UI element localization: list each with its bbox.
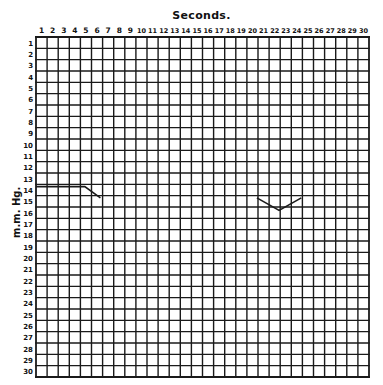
y-tick-label: 14 [23,187,33,195]
x-axis-tick-labels: 1234567891011121314151617181920212223242… [39,26,369,35]
y-tick-label: 23 [23,289,33,297]
y-axis-tick-labels: 1234567891011121314151617181920212223242… [23,40,33,377]
y-tick-label: 12 [23,164,33,172]
x-tick-label: 12 [159,27,168,35]
x-tick-label: 1 [39,26,44,35]
y-tick-label: 3 [28,62,33,70]
y-tick-label: 26 [23,323,33,331]
y-tick-label: 5 [28,85,33,93]
y-tick-label: 11 [23,153,33,161]
x-tick-label: 15 [192,27,202,35]
x-tick-label: 30 [359,27,369,35]
x-tick-label: 29 [348,27,358,35]
x-tick-label: 21 [259,27,269,35]
y-tick-label: 29 [23,357,33,365]
x-tick-label: 8 [117,26,122,35]
x-tick-label: 20 [248,27,258,35]
x-tick-label: 27 [326,27,335,35]
x-tick-label: 10 [137,27,147,35]
x-tick-label: 11 [148,27,158,35]
y-tick-label: 7 [28,108,33,116]
x-tick-label: 22 [270,27,279,35]
x-tick-label: 9 [128,26,133,35]
plot-area: 1234567891011121314151617181920212223242… [0,0,383,385]
x-tick-label: 4 [72,26,77,35]
x-tick-label: 26 [315,27,325,35]
y-axis-label: m.m. Hg. [11,187,22,238]
x-tick-label: 28 [337,27,347,35]
x-tick-label: 2 [50,26,55,35]
y-tick-label: 13 [23,176,33,184]
x-tick-label: 3 [61,26,66,35]
y-tick-label: 8 [28,119,33,127]
x-tick-label: 16 [204,27,214,35]
x-tick-label: 24 [292,27,302,35]
y-tick-label: 1 [28,40,33,48]
y-tick-label: 4 [28,74,33,82]
y-tick-label: 17 [23,221,33,229]
y-tick-label: 25 [23,312,33,320]
y-tick-label: 22 [23,278,33,286]
y-tick-label: 15 [23,198,33,206]
y-tick-label: 16 [23,210,33,218]
chart-container: Seconds. 1234567891011121314151617181920… [0,0,383,385]
x-tick-label: 13 [170,27,179,35]
y-tick-label: 20 [23,255,33,263]
y-tick-label: 9 [28,130,33,138]
x-tick-label: 14 [181,27,191,35]
y-tick-label: 19 [23,244,33,252]
y-tick-label: 2 [28,51,33,59]
y-tick-label: 27 [23,334,33,342]
y-tick-label: 21 [23,266,33,274]
x-tick-label: 5 [83,26,88,35]
x-tick-label: 23 [281,27,290,35]
x-tick-label: 6 [94,26,99,35]
grid-lines [36,37,369,377]
x-tick-label: 17 [215,27,224,35]
x-tick-label: 7 [106,26,111,35]
y-tick-label: 10 [23,142,33,150]
y-tick-label: 18 [23,232,33,240]
y-tick-label: 24 [23,300,33,308]
x-tick-label: 19 [237,27,247,35]
x-tick-label: 18 [226,27,236,35]
y-tick-label: 30 [23,368,33,376]
y-tick-label: 6 [28,96,33,104]
y-tick-label: 28 [23,346,33,354]
trace-right [257,198,301,211]
x-tick-label: 25 [303,27,313,35]
